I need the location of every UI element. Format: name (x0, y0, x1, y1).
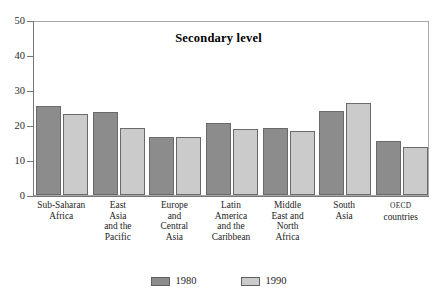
x-category-label-6: SouthAsia (312, 200, 377, 221)
bar-1980-3 (149, 137, 174, 195)
bars-layer (34, 22, 428, 195)
x-category-label-2: EastAsiaand thePacific (86, 200, 151, 242)
y-tick-label-30: 30 (1, 86, 25, 96)
x-category-label-1: Sub-SaharanAfrica (29, 200, 94, 221)
bar-1990-1 (63, 114, 88, 195)
chart-figure: 50 40 30 20 10 0 Secondary level Sub-Sah… (0, 0, 437, 308)
y-tick-group-20: 20 (0, 121, 25, 131)
bar-1990-3 (176, 137, 201, 195)
bar-1990-7 (403, 147, 428, 195)
bar-1980-7 (376, 141, 401, 195)
bar-1990-5 (290, 131, 315, 195)
x-category-label-5: MiddleEast andNorthAfrica (255, 200, 320, 242)
chart-title: Secondary level (0, 31, 437, 46)
x-category-label-7: OECDcountries (368, 200, 433, 222)
legend-label-1990: 1990 (266, 276, 287, 286)
bar-1980-1 (36, 106, 61, 195)
bar-1990-4 (233, 129, 258, 196)
y-tick-label-40: 40 (1, 51, 25, 61)
y-tick-group-10: 10 (0, 156, 25, 166)
y-tick-group-40: 40 (0, 51, 25, 61)
y-tick-group-50: 50 (0, 16, 25, 26)
legend-swatch-1990 (241, 277, 260, 286)
legend-swatch-1980 (151, 277, 170, 286)
y-tick-group-0: 0 (0, 191, 25, 201)
legend-item-1990: 1990 (241, 276, 287, 286)
bar-1980-6 (319, 111, 344, 195)
bar-1980-5 (263, 128, 288, 195)
bar-1990-2 (120, 128, 145, 195)
y-tick-label-10: 10 (1, 156, 25, 166)
bar-1980-4 (206, 123, 231, 195)
y-tick-group-30: 30 (0, 86, 25, 96)
y-tick-label-0: 0 (1, 191, 25, 201)
x-axis-line (33, 196, 429, 197)
chart-legend: 1980 1990 (0, 276, 437, 286)
x-category-label-3: EuropeandCentralAsia (142, 200, 207, 242)
plot-area (33, 21, 429, 196)
legend-label-1980: 1980 (176, 276, 197, 286)
y-tick-label-50: 50 (1, 16, 25, 26)
y-axis-line (33, 21, 34, 197)
bar-1990-6 (346, 103, 371, 195)
x-category-label-4: LatinAmericaand theCaribbean (199, 200, 264, 242)
legend-item-1980: 1980 (151, 276, 197, 286)
y-tick-label-20: 20 (1, 121, 25, 131)
bar-1980-2 (93, 112, 118, 195)
